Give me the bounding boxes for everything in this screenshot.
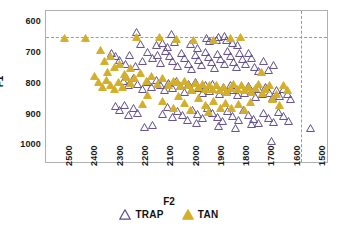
data-point-tan: [246, 98, 255, 106]
y-axis-ticks: 6007008009001000: [0, 10, 41, 163]
x-axis-tick-label: 2000: [191, 145, 201, 166]
data-point-trap: [197, 61, 206, 69]
x-axis-tick-label: 2300: [115, 145, 125, 166]
plot-area: [45, 10, 328, 163]
data-point-tan: [265, 81, 274, 89]
data-point-tan: [275, 101, 284, 109]
data-point-trap: [247, 54, 256, 62]
data-point-tan: [257, 68, 266, 76]
data-point-trap: [267, 137, 276, 145]
data-point-trap: [125, 51, 134, 59]
data-point-trap: [259, 57, 268, 65]
data-point-tan: [158, 97, 167, 105]
data-point-trap: [269, 61, 278, 69]
data-point-trap: [214, 122, 223, 130]
x-axis-ticks: 2500240023002200210020001900180017001600…: [45, 166, 328, 200]
data-point-trap: [156, 59, 165, 67]
data-point-tan: [81, 34, 90, 42]
data-point-tan: [236, 33, 245, 41]
data-point-trap: [173, 62, 182, 70]
y-axis-tick-label: 700: [25, 47, 41, 57]
data-point-trap: [232, 63, 241, 71]
y-axis-tick-label: 800: [25, 78, 41, 88]
data-point-tan: [126, 64, 135, 72]
data-point-tan: [132, 33, 141, 41]
data-point-trap: [233, 41, 242, 49]
legend-item-tan[interactable]: TAN: [182, 209, 219, 220]
data-point-tan: [147, 72, 156, 80]
data-point-trap: [192, 119, 201, 127]
data-point-tan: [283, 86, 292, 94]
data-point-trap: [286, 95, 295, 103]
data-point-tan: [138, 100, 147, 108]
data-point-trap: [269, 118, 278, 126]
data-points-layer: [46, 11, 327, 162]
data-point-tan: [204, 108, 213, 116]
legend: TRAPTAN: [0, 209, 338, 220]
data-point-tan: [60, 34, 69, 42]
filled-triangle-icon: [182, 209, 194, 220]
data-point-tan: [272, 90, 281, 98]
data-point-trap: [138, 57, 147, 65]
data-point-trap: [247, 120, 256, 128]
data-point-tan: [155, 33, 164, 41]
data-point-tan: [226, 34, 235, 42]
legend-label: TAN: [198, 209, 219, 220]
data-point-trap: [210, 64, 219, 72]
x-axis-tick-label: 2100: [165, 145, 175, 166]
data-point-tan: [169, 104, 178, 112]
x-axis-tick-label: 1700: [266, 145, 276, 166]
data-point-tan: [100, 57, 109, 65]
data-point-tan: [209, 36, 218, 44]
data-point-tan: [96, 46, 105, 54]
x-axis-tick-label: 1900: [216, 145, 226, 166]
formant-scatter-figure: 6007008009001000 F1 25002400230022002100…: [0, 0, 338, 236]
y-axis-label: F1: [0, 76, 5, 88]
y-axis-tick-label: 900: [25, 109, 41, 119]
data-point-trap: [284, 117, 293, 125]
open-triangle-icon: [119, 209, 131, 220]
data-point-trap: [140, 123, 149, 131]
x-axis-tick-label: 1500: [317, 145, 327, 166]
data-point-tan: [172, 35, 181, 43]
data-point-trap: [187, 65, 196, 73]
data-point-trap: [234, 116, 243, 124]
vertical-f2-reference: [301, 11, 302, 162]
x-axis-tick-label: 2500: [64, 145, 74, 166]
x-axis-tick-label: 2400: [89, 145, 99, 166]
data-point-trap: [120, 101, 129, 109]
data-point-trap: [306, 124, 315, 132]
data-point-trap: [133, 109, 142, 117]
data-point-tan: [126, 79, 135, 87]
data-point-tan: [103, 68, 112, 76]
data-point-tan: [189, 36, 198, 44]
x-axis-tick-label: 1600: [292, 145, 302, 166]
data-point-tan: [240, 106, 249, 114]
data-point-tan: [115, 60, 124, 68]
legend-item-trap[interactable]: TRAP: [119, 209, 163, 220]
data-point-trap: [231, 124, 240, 132]
y-axis-tick-label: 1000: [20, 139, 41, 149]
x-axis-label: F2: [0, 196, 338, 207]
x-axis-tick-label: 2200: [140, 145, 150, 166]
x-axis-tick-label: 1800: [241, 145, 251, 166]
data-point-trap: [220, 60, 229, 68]
data-point-tan: [143, 91, 152, 99]
data-point-tan: [186, 106, 195, 114]
y-axis-tick-label: 600: [25, 16, 41, 26]
legend-label: TRAP: [135, 209, 163, 220]
